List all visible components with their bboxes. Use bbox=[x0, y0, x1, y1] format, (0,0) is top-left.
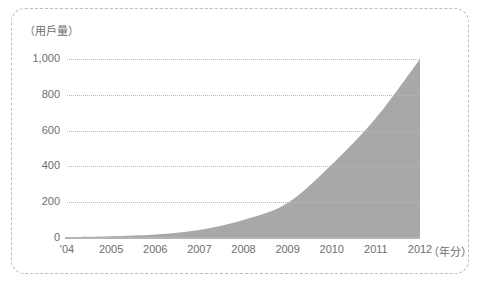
y-axis-tick-label: 0 bbox=[14, 232, 60, 243]
y-axis-tick-label: 1,000 bbox=[14, 53, 60, 64]
x-axis-tick-label: 2007 bbox=[187, 243, 211, 255]
gridline bbox=[67, 202, 420, 203]
y-axis-unit-label: （用戶量） bbox=[24, 22, 79, 38]
x-axis-tick-label: 2005 bbox=[99, 243, 123, 255]
gridline bbox=[67, 59, 420, 60]
x-axis-tick-label: 2010 bbox=[320, 243, 344, 255]
gridline bbox=[67, 131, 420, 132]
area-fill-path bbox=[67, 59, 420, 238]
y-axis-tick-labels: 02004006008001,000 bbox=[14, 59, 60, 238]
x-axis-tick-label: 2009 bbox=[275, 243, 299, 255]
x-axis-tick-label: 2011 bbox=[364, 243, 388, 255]
chart-figure: （用戶量） 02004006008001,000 '04200520062007… bbox=[0, 0, 483, 285]
x-axis-tick-label: 2008 bbox=[231, 243, 255, 255]
x-axis-unit-label: （年分） bbox=[428, 243, 472, 259]
x-axis-tick-label: 2006 bbox=[143, 243, 167, 255]
x-axis-tick-label: '04 bbox=[60, 243, 74, 255]
area-series-shape bbox=[67, 59, 420, 238]
y-axis-tick-label: 800 bbox=[14, 89, 60, 100]
plot-area bbox=[67, 59, 420, 238]
gridline bbox=[67, 166, 420, 167]
x-axis-baseline bbox=[65, 237, 420, 239]
x-axis-tick-labels: '0420052006200720082009201020112012 bbox=[67, 243, 420, 259]
y-axis-tick-label: 600 bbox=[14, 125, 60, 136]
y-axis-tick-label: 400 bbox=[14, 160, 60, 171]
y-axis-tick-label: 200 bbox=[14, 196, 60, 207]
gridline bbox=[67, 95, 420, 96]
